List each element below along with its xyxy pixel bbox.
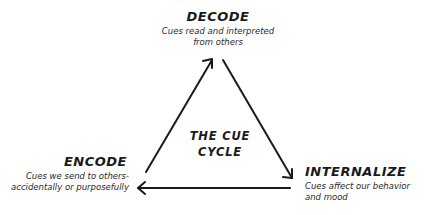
cue-cycle-diagram: DECODE Cues read and interpreted from ot…: [0, 0, 424, 215]
internalize-heading: INTERNALIZE: [305, 165, 406, 179]
internalize-description-line: and mood: [305, 192, 410, 203]
arrow-internalize-to-encode: [138, 182, 290, 194]
arrow-decode-to-internalize: [223, 60, 292, 178]
encode-description: Cues we send to others- accidentally or …: [11, 171, 129, 192]
decode-description-line: Cues read and interpreted: [12, 26, 424, 37]
encode-description-line: Cues we send to others-: [11, 171, 129, 182]
internalize-description: Cues affect our behavior and mood: [305, 181, 410, 202]
cycle-title-line: THE CUE: [170, 128, 270, 144]
decode-heading: DECODE: [0, 10, 424, 24]
cycle-title-line: CYCLE: [170, 144, 270, 160]
encode-description-line: accidentally or purposefully: [11, 182, 129, 193]
decode-description: Cues read and interpreted from others: [0, 26, 424, 47]
cycle-title: THE CUE CYCLE: [170, 128, 270, 160]
encode-heading: ENCODE: [64, 155, 127, 169]
internalize-description-line: Cues affect our behavior: [305, 181, 410, 192]
decode-description-line: from others: [12, 37, 424, 48]
